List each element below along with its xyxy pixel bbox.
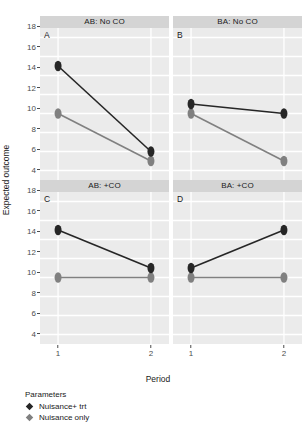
x-axis-title: Period (14, 374, 302, 384)
data-point (280, 272, 287, 282)
legend-marker-icon (25, 402, 34, 411)
legend-label: Nuisance+ trt (39, 402, 86, 411)
plot-area-c: C (40, 192, 169, 344)
x-tick-label: 1 (189, 349, 193, 358)
y-axis-row-1: 4681012141618 (14, 16, 40, 180)
facet-grid: 4681012141618 AB: No CO A BA: No CO B 46… (14, 16, 302, 358)
series-line (191, 230, 284, 268)
x-axis-right: 12 (173, 344, 302, 358)
plot-area-d: D (173, 192, 302, 344)
y-tick-label: 12 (27, 83, 36, 92)
data-point (280, 108, 287, 118)
strip-label-d: BA: +CO (173, 180, 302, 192)
plot-area-b: B (173, 28, 302, 180)
x-axis-spacer (14, 344, 40, 358)
data-point (55, 108, 62, 118)
y-tick-label: 18 (27, 186, 36, 195)
y-tick-label: 6 (32, 145, 36, 154)
x-axis-row: 12 12 (40, 344, 302, 358)
chart-root: Expected outcome 4681012141618 AB: No CO… (0, 0, 302, 432)
y-tick-label: 8 (32, 288, 36, 297)
facet-panel-d: BA: +CO D (173, 180, 302, 344)
data-point (55, 272, 62, 282)
data-point (147, 146, 154, 156)
y-tick-label: 18 (27, 22, 36, 31)
facet-row-2: AB: +CO C BA: +CO D (40, 180, 302, 344)
legend-marker-icon (25, 413, 34, 422)
series-line (191, 104, 284, 114)
y-tick-label: 16 (27, 42, 36, 51)
data-point (188, 272, 195, 282)
y-tick-label: 10 (27, 268, 36, 277)
y-tick-label: 8 (32, 124, 36, 133)
x-axis-left: 12 (40, 344, 169, 358)
legend-item-nuisance-trt[interactable]: Nuisance+ trt (25, 402, 89, 411)
strip-label-b: BA: No CO (173, 16, 302, 28)
data-point (188, 263, 195, 273)
panel-tag-b: B (177, 30, 183, 40)
facet-panel-c: AB: +CO C (40, 180, 169, 344)
y-tick-label: 16 (27, 206, 36, 215)
y-tick-label: 14 (27, 63, 36, 72)
x-tick-label: 2 (282, 349, 286, 358)
plot-area-a: A (40, 28, 169, 180)
facet-panel-a: AB: No CO A (40, 16, 169, 180)
panel-tag-d: D (177, 194, 183, 204)
data-point (147, 272, 154, 282)
y-tick-label: 10 (27, 104, 36, 113)
strip-label-c: AB: +CO (40, 180, 169, 192)
x-tick-label: 1 (56, 349, 60, 358)
strip-label-a: AB: No CO (40, 16, 169, 28)
data-point (280, 156, 287, 166)
panel-tag-a: A (44, 30, 50, 40)
legend-title: Parameters (25, 390, 89, 399)
y-tick-label: 4 (32, 329, 36, 338)
data-point (55, 225, 62, 235)
legend: Parameters Nuisance+ trt Nuisance only (25, 390, 89, 422)
y-tick-label: 4 (32, 165, 36, 174)
plot-svg-a (40, 28, 169, 180)
x-tick-label: 2 (149, 349, 153, 358)
data-point (188, 108, 195, 118)
series-line (58, 66, 151, 152)
legend-item-nuisance-only[interactable]: Nuisance only (25, 413, 89, 422)
y-tick-label: 14 (27, 227, 36, 236)
data-point (280, 225, 287, 235)
series-line (191, 114, 284, 162)
y-axis-title: Expected outcome (0, 0, 13, 360)
facet-row-1: AB: No CO A BA: No CO B (40, 16, 302, 180)
y-tick-label: 6 (32, 309, 36, 318)
series-line (58, 230, 151, 268)
legend-label: Nuisance only (39, 413, 89, 422)
data-point (55, 61, 62, 71)
plot-svg-d (173, 192, 302, 344)
facet-panel-b: BA: No CO B (173, 16, 302, 180)
y-axis-row-2: 4681012141618 (14, 180, 40, 344)
data-point (147, 156, 154, 166)
data-point (188, 99, 195, 109)
panel-tag-c: C (44, 194, 50, 204)
y-tick-label: 12 (27, 247, 36, 256)
plot-svg-b (173, 28, 302, 180)
data-point (147, 263, 154, 273)
plot-svg-c (40, 192, 169, 344)
series-line (58, 114, 151, 162)
